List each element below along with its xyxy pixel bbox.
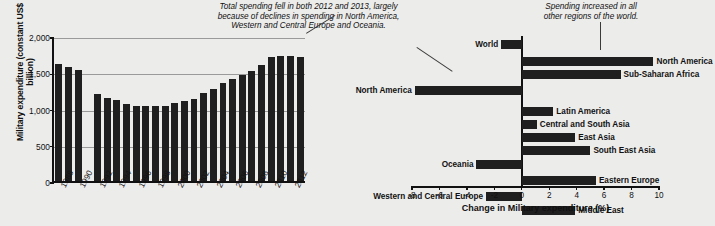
right-chart-x-tick: -8 (408, 191, 415, 200)
left-chart-bar-slot (112, 38, 122, 181)
left-chart-x-tick-labels: 1988199019921994199619982000200220042006… (52, 185, 305, 225)
left-chart-bar (191, 99, 198, 181)
left-chart-bar-slot (209, 38, 219, 181)
right-chart-x-tick-mark (658, 186, 659, 190)
right-chart-bar (415, 86, 522, 95)
change-in-military-expenditure-chart: WorldNorth AmericaSub-Saharan AfricaNort… (356, 0, 715, 226)
left-chart-bar (297, 57, 304, 181)
right-chart-x-tick-mark (521, 186, 522, 190)
right-chart-bar (501, 40, 522, 49)
left-chart-bars (54, 38, 305, 181)
right-chart-x-tick-mark (411, 186, 412, 190)
right-chart-bar (522, 133, 576, 142)
right-chart-x-axis-title: Change in Military expenditure (%) (412, 203, 659, 213)
left-chart-bar (287, 56, 294, 181)
left-chart-plot-area: 05001,0001,5002,000 (52, 38, 305, 183)
left-chart-bar-slot (83, 38, 93, 181)
military-expenditure-figure: Military expenditure (constant US$ billi… (0, 0, 715, 226)
left-chart-bar (268, 57, 275, 181)
right-chart-x-tick: 8 (629, 191, 634, 200)
left-chart-bar-slot (73, 38, 83, 181)
left-chart-bar-slot (93, 38, 103, 181)
right-chart-bar (522, 120, 537, 129)
right-chart-x-tick-mark (603, 186, 604, 190)
left-chart-bar-slot (286, 38, 296, 181)
right-chart-x-axis: -8-6-4-20246810 (412, 186, 659, 188)
left-chart-bar-slot (276, 38, 286, 181)
left-chart-bar-slot (122, 38, 132, 181)
left-chart-bar-slot (218, 38, 228, 181)
left-chart-y-tick-mark (50, 182, 54, 183)
right-chart-bar-label: North America (657, 57, 713, 66)
left-chart-bar (239, 75, 246, 181)
right-chart-bar-label: Eastern Europe (599, 176, 660, 185)
left-chart-bar (171, 103, 178, 181)
right-chart-bar (476, 160, 521, 169)
right-chart-x-tick-mark (576, 186, 577, 190)
left-chart-bar-slot (295, 38, 305, 181)
right-chart-x-tick-mark (494, 186, 495, 190)
right-chart-x-tick: -2 (491, 191, 498, 200)
left-chart-bar-slot (228, 38, 238, 181)
left-chart-bar-slot (189, 38, 199, 181)
left-chart-y-tick: 500 (36, 142, 50, 152)
left-chart-bar (258, 65, 265, 181)
right-chart-bar-label: World (475, 40, 498, 49)
right-chart-x-tick: 2 (547, 191, 552, 200)
left-chart-bar-slot (180, 38, 190, 181)
right-chart-x-tick: -4 (463, 191, 470, 200)
left-chart-bar-slot (131, 38, 141, 181)
left-chart-bar (229, 79, 236, 181)
left-chart-bar (65, 67, 72, 181)
left-chart-bar-slot (199, 38, 209, 181)
right-chart-plot-area: WorldNorth AmericaSub-Saharan AfricaNort… (412, 36, 659, 186)
right-chart-x-tick: 10 (654, 191, 663, 200)
left-chart-bar-slot (102, 38, 112, 181)
right-chart-bar (522, 70, 621, 79)
right-chart-bar-label: North America (356, 86, 412, 95)
right-chart-bar (522, 146, 591, 155)
left-chart-bar (200, 93, 207, 181)
right-chart-bar-label: South East Asia (593, 146, 655, 155)
left-chart-bar-slot (247, 38, 257, 181)
left-chart-bar (133, 106, 140, 181)
left-chart-bar-slot (257, 38, 267, 181)
right-chart-x-tick: 6 (602, 191, 607, 200)
left-chart-bar-slot (141, 38, 151, 181)
left-chart-bar (55, 64, 62, 181)
right-chart-x-tick: 4 (574, 191, 579, 200)
left-chart-bar (277, 56, 284, 181)
right-chart-bar-label: Central and South Asia (540, 120, 630, 129)
right-chart-bar-label: Latin America (556, 107, 610, 116)
left-chart-bar-slot (151, 38, 161, 181)
left-chart-bar-slot (237, 38, 247, 181)
left-chart-bar (94, 94, 101, 181)
left-chart-y-tick: 1,000 (29, 106, 50, 116)
right-chart-bar-label: East Asia (578, 133, 615, 142)
right-chart-bar-label: Sub-Saharan Africa (624, 70, 700, 79)
left-chart-bar (210, 89, 217, 181)
left-chart-y-tick: 2,000 (29, 33, 50, 43)
left-chart-bar (220, 83, 227, 181)
left-chart-bar (248, 71, 255, 181)
right-chart-x-tick: 0 (519, 191, 524, 200)
right-chart-bar-label: Oceania (442, 160, 474, 169)
right-chart-x-tick-mark (549, 186, 550, 190)
left-chart-bar-slot (54, 38, 64, 181)
right-chart-bar (522, 57, 654, 66)
right-chart-x-tick-mark (631, 186, 632, 190)
right-chart-bar (522, 107, 554, 116)
left-chart-bar-slot (170, 38, 180, 181)
right-chart-bar (522, 176, 596, 185)
left-chart-y-tick: 1,500 (29, 69, 50, 79)
left-chart-bar (75, 70, 82, 181)
right-chart-x-tick-mark (466, 186, 467, 190)
left-chart-bar-slot (266, 38, 276, 181)
right-chart-x-tick: -6 (436, 191, 443, 200)
left-chart-bar (113, 100, 120, 181)
left-chart-bar (152, 106, 159, 181)
right-chart-x-tick-mark (439, 186, 440, 190)
left-chart-bar-slot (160, 38, 170, 181)
left-chart-bar-slot (64, 38, 74, 181)
